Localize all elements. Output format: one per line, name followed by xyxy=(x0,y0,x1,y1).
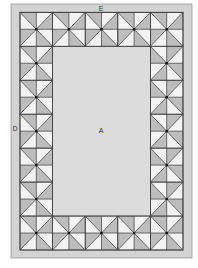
block-center-dot xyxy=(165,62,168,65)
block-center-dot xyxy=(35,62,38,65)
block-center-dot xyxy=(35,198,38,201)
block-center-dot xyxy=(165,164,168,167)
block-center-dot xyxy=(165,130,168,133)
quilt-diagram: A D E xyxy=(0,0,198,268)
label-top-border-e: E xyxy=(99,5,104,12)
block-center-dot xyxy=(35,164,38,167)
block-center-dot xyxy=(133,232,136,235)
block-center-dot xyxy=(68,28,71,31)
block-center-dot xyxy=(35,232,38,235)
label-side-border-d: D xyxy=(12,125,17,132)
block-center-dot xyxy=(35,28,38,31)
block-center-dot xyxy=(165,28,168,31)
block-center-dot xyxy=(100,232,103,235)
block-center-dot xyxy=(165,96,168,99)
block-center-dot xyxy=(165,198,168,201)
block-center-dot xyxy=(100,28,103,31)
block-center-dot xyxy=(165,232,168,235)
label-center-a: A xyxy=(99,127,104,134)
block-center-dot xyxy=(35,130,38,133)
block-center-dot xyxy=(35,96,38,99)
block-center-dot xyxy=(133,28,136,31)
block-center-dot xyxy=(68,232,71,235)
